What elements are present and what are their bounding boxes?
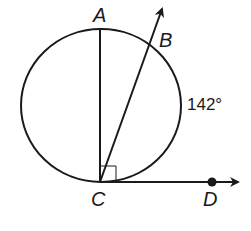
point-d bbox=[208, 178, 217, 187]
label-c: C bbox=[91, 188, 106, 210]
label-a: A bbox=[92, 4, 106, 26]
geometry-diagram: A B C D 142° bbox=[0, 0, 251, 231]
label-d: D bbox=[203, 188, 217, 210]
label-b: B bbox=[159, 29, 172, 51]
arc-measure-label: 142° bbox=[187, 95, 222, 114]
